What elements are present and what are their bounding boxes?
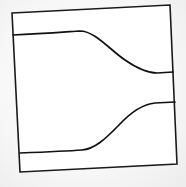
diagram-svg: [0, 0, 186, 187]
diagram-canvas: [0, 0, 186, 187]
